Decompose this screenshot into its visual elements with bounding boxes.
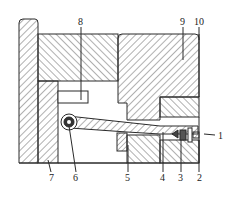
label-9: 9 [180,16,185,27]
left-outer-plate [19,19,38,163]
right-middle-block [160,97,199,117]
bottom-right-block [160,140,199,163]
top-middle-block [38,34,118,81]
part-5-block [117,133,127,151]
label-4: 4 [160,172,165,183]
label-8: 8 [78,16,83,27]
bottom-center-block [127,135,160,163]
label-1: 1 [218,130,223,141]
label-3: 3 [178,172,183,183]
label-5: 5 [125,172,130,183]
label-2: 2 [197,172,202,183]
left-inner-plate [38,81,58,163]
label-10: 10 [194,16,204,27]
mechanism-diagram: 8 9 10 1 2 3 4 5 6 7 [0,0,237,197]
slot [58,91,88,103]
label-7: 7 [49,172,54,183]
label-6: 6 [73,172,78,183]
